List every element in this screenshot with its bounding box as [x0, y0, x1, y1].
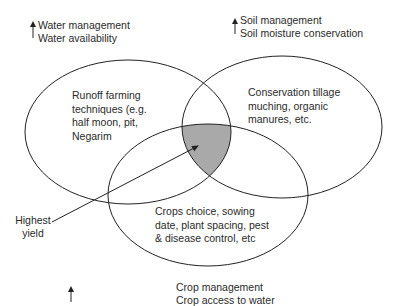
water-management-header: Water management Water availability [38, 19, 130, 44]
soil-management-content: Conservation tillage muching, organic ma… [248, 86, 340, 127]
up-arrow-icon [30, 21, 36, 38]
crop-management-content: Crops choice, sowing date, plant spacing… [155, 205, 269, 246]
soil-management-header: Soil management Soil moisture conservati… [240, 14, 363, 39]
venn-diagram [0, 0, 396, 306]
up-arrow-icon [232, 18, 238, 34]
up-arrow-icon [68, 286, 74, 302]
highest-yield-label: Highest yield [14, 214, 52, 240]
crop-management-header: Crop management Crop access to water [176, 281, 275, 306]
water-management-content: Runoff farming techniques (e.g. half moo… [72, 89, 147, 143]
